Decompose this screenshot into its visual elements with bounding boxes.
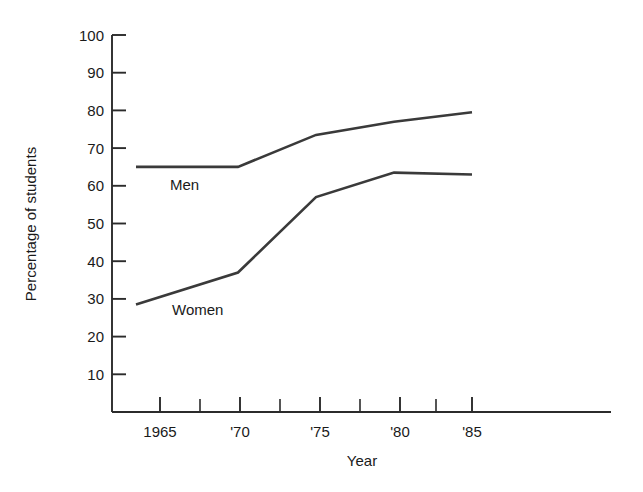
y-tick-label-40: 40 — [87, 253, 104, 270]
line-chart: 100 90 80 70 60 50 40 30 20 10 1965 '70 … — [0, 0, 643, 492]
chart-canvas: 100 90 80 70 60 50 40 30 20 10 1965 '70 … — [0, 0, 643, 492]
y-axis-title: Percentage of students — [22, 147, 39, 301]
y-axis-ticks — [112, 35, 126, 374]
y-tick-label-60: 60 — [87, 177, 104, 194]
y-tick-label-50: 50 — [87, 215, 104, 232]
x-axis-ticks — [160, 397, 472, 412]
x-axis-title: Year — [347, 452, 377, 469]
y-tick-label-20: 20 — [87, 328, 104, 345]
y-tick-label-70: 70 — [87, 140, 104, 157]
y-tick-label-30: 30 — [87, 290, 104, 307]
x-tick-label-85: '85 — [462, 423, 482, 440]
x-tick-label-1965: 1965 — [143, 423, 176, 440]
y-tick-label-90: 90 — [87, 64, 104, 81]
y-tick-label-10: 10 — [87, 366, 104, 383]
x-axis-tick-labels: 1965 '70 '75 '80 '85 — [143, 423, 481, 440]
series-line-men — [136, 112, 472, 167]
y-axis-tick-labels: 100 90 80 70 60 50 40 30 20 10 — [79, 27, 104, 383]
y-tick-label-100: 100 — [79, 27, 104, 44]
x-tick-label-80: '80 — [390, 423, 410, 440]
x-tick-label-75: '75 — [310, 423, 330, 440]
x-tick-label-70: '70 — [230, 423, 250, 440]
series-label-women: Women — [172, 301, 223, 318]
y-tick-label-80: 80 — [87, 102, 104, 119]
series-label-men: Men — [170, 176, 199, 193]
